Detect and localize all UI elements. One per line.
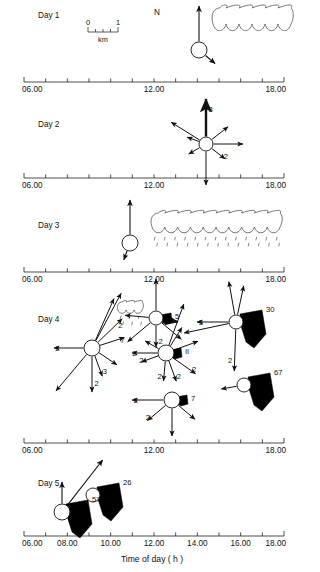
- axis-tick-label: 06.00: [22, 446, 43, 455]
- axis-tick-label: 14.00: [187, 539, 208, 548]
- group-size-label: 30: [266, 305, 274, 314]
- movement-vector: [164, 361, 166, 380]
- axis-tick-label: 12.00: [144, 85, 165, 94]
- rain-cloud-icon: [151, 210, 282, 246]
- rain-streak: [218, 243, 219, 247]
- rain-streak: [258, 243, 259, 247]
- rain-streak: [141, 322, 142, 326]
- group-size-label: 67: [274, 368, 282, 377]
- movement-vector: [96, 293, 121, 340]
- panel-label-day4: Day 4: [38, 315, 60, 324]
- rain-streak: [164, 237, 165, 241]
- movement-vector: [169, 361, 176, 381]
- movement-vector: [124, 251, 127, 260]
- rain-streak: [279, 243, 280, 247]
- observation-node: [122, 235, 138, 251]
- movement-vector: [142, 356, 158, 362]
- north-label: N: [154, 8, 160, 17]
- movement-vector: [189, 148, 200, 154]
- axis-tick-label: 18.00: [266, 85, 287, 94]
- axis-tick-label: 06.00: [22, 181, 43, 190]
- rain-streak: [246, 237, 247, 241]
- axis-tick-label: 12.00: [144, 539, 165, 548]
- vector-count-label: 2: [146, 413, 150, 422]
- rain-streak: [205, 237, 206, 241]
- scalebar-layer: 01km: [86, 18, 120, 44]
- vector-count-label: 2: [158, 337, 162, 346]
- rain-streak: [266, 237, 267, 241]
- rain-streak: [175, 237, 176, 241]
- axis-tick-label: 06.00: [22, 539, 43, 548]
- panel-label-day2: Day 2: [38, 120, 60, 129]
- axis-tick-label: 12.00: [144, 275, 165, 284]
- vector-count-label: 2: [228, 356, 232, 365]
- movement-vector: [238, 286, 244, 315]
- rain-streak: [238, 243, 239, 247]
- axis-tick-label: 16.00: [230, 539, 251, 548]
- panel-label-day1: Day 1: [38, 11, 60, 20]
- group-size-label: 26: [123, 478, 131, 487]
- movement-vector: [56, 355, 87, 391]
- rain-streak: [256, 237, 257, 241]
- movement-vector: [234, 329, 235, 370]
- movement-vector: [221, 386, 236, 389]
- nodes-layer: [54, 42, 274, 538]
- panel-label-day5: Day 5: [38, 479, 60, 488]
- movement-vector: [206, 55, 216, 63]
- rain-streak: [187, 243, 188, 247]
- observation-node: [191, 42, 207, 58]
- rain-streak: [225, 237, 226, 241]
- rain-streak: [215, 237, 216, 241]
- group-size-label: 7: [191, 394, 195, 403]
- vector-count-label: 2: [224, 152, 228, 161]
- vector-count-label: 2: [192, 365, 196, 374]
- axis-tick-label: 18.00: [266, 539, 287, 548]
- rain-streak: [228, 243, 229, 247]
- vector-count-label: 3: [208, 105, 212, 114]
- movement-vector: [125, 315, 148, 317]
- group-size-wedge: [97, 483, 123, 521]
- scalebar-min-label: 0: [86, 18, 90, 27]
- axis-day1: 06.0012.0018.00: [22, 77, 286, 94]
- observation-node: [199, 137, 213, 151]
- rain-streak: [157, 243, 158, 247]
- rain-streak: [248, 243, 249, 247]
- observation-node: [164, 392, 180, 408]
- axis-tick-label: 12.00: [144, 446, 165, 455]
- observation-node: [158, 345, 174, 361]
- movement-vector: [229, 282, 235, 315]
- axis-day5: 06.0008.0010.0012.0014.0016.0018.00: [22, 531, 286, 548]
- axis-tick-label: 18.00: [266, 275, 287, 284]
- group-size-wedge: [248, 373, 274, 411]
- movement-vector: [95, 299, 114, 341]
- axis-tick-label: 06.00: [22, 275, 43, 284]
- rain-streak: [123, 322, 124, 326]
- panel-label-day3: Day 3: [38, 221, 60, 230]
- rain-streak: [177, 243, 178, 247]
- rain-streak: [195, 237, 196, 241]
- group-size-label: 57: [92, 495, 100, 504]
- vector-count-label: 7: [120, 336, 124, 345]
- cloud-icon: [212, 5, 293, 31]
- vector-count-label: 3: [199, 318, 203, 327]
- observation-node: [149, 311, 163, 325]
- scalebar-unit-label: km: [98, 35, 108, 44]
- vector-count-label: 3: [103, 367, 107, 376]
- vector-count-label: 2: [134, 396, 138, 405]
- movement-vector: [184, 324, 229, 333]
- rain-streak: [197, 243, 198, 247]
- movement-vector: [145, 341, 158, 349]
- movement-vector: [171, 122, 199, 140]
- vector-count-label: 2: [157, 372, 161, 381]
- movement-vector: [147, 405, 165, 420]
- vectors-layer: [54, 6, 244, 505]
- movement-vector: [128, 323, 151, 342]
- rain-streak: [154, 237, 155, 241]
- movement-vector: [212, 127, 228, 140]
- rain-streak: [236, 237, 237, 241]
- axis-tick-label: 18.00: [266, 181, 287, 190]
- group-size-label: 5: [175, 312, 179, 321]
- axis-day2: 06.0012.0018.00: [22, 173, 286, 190]
- movement-vector: [99, 353, 117, 365]
- rain-streak: [208, 243, 209, 247]
